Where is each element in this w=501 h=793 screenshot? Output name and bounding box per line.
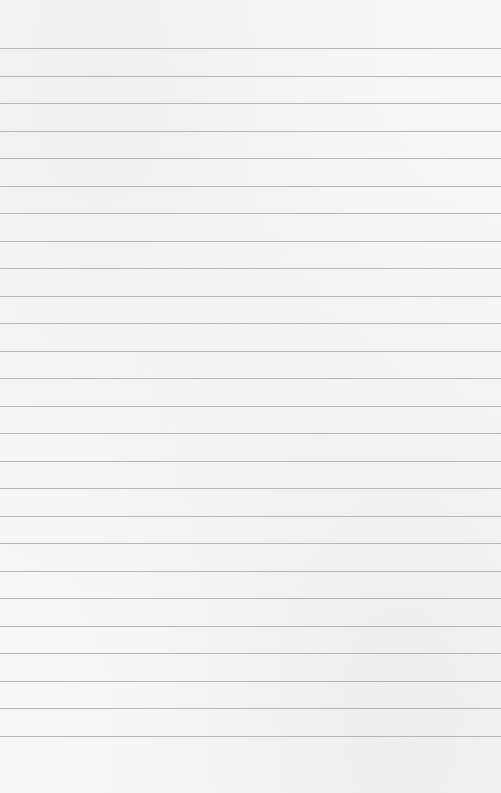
ruled-line [0,598,501,599]
ruled-line [0,626,501,627]
ruled-line [0,516,501,517]
ruled-line [0,351,501,352]
ruled-line [0,543,501,544]
ruled-line [0,736,501,737]
ruled-line [0,681,501,682]
ruled-line [0,296,501,297]
ruled-line [0,461,501,462]
ruled-line [0,213,501,214]
ruled-line [0,186,501,187]
ruled-line [0,488,501,489]
ruled-line [0,268,501,269]
ruled-line [0,378,501,379]
ruled-line [0,48,501,49]
ruled-line [0,131,501,132]
ruled-line [0,158,501,159]
ruled-line [0,653,501,654]
ruled-line [0,433,501,434]
ruled-line [0,241,501,242]
lined-paper-sheet [0,0,501,793]
ruled-line [0,708,501,709]
ruled-line [0,76,501,77]
ruled-line [0,571,501,572]
ruled-line [0,103,501,104]
ruled-line [0,323,501,324]
ruled-line [0,406,501,407]
